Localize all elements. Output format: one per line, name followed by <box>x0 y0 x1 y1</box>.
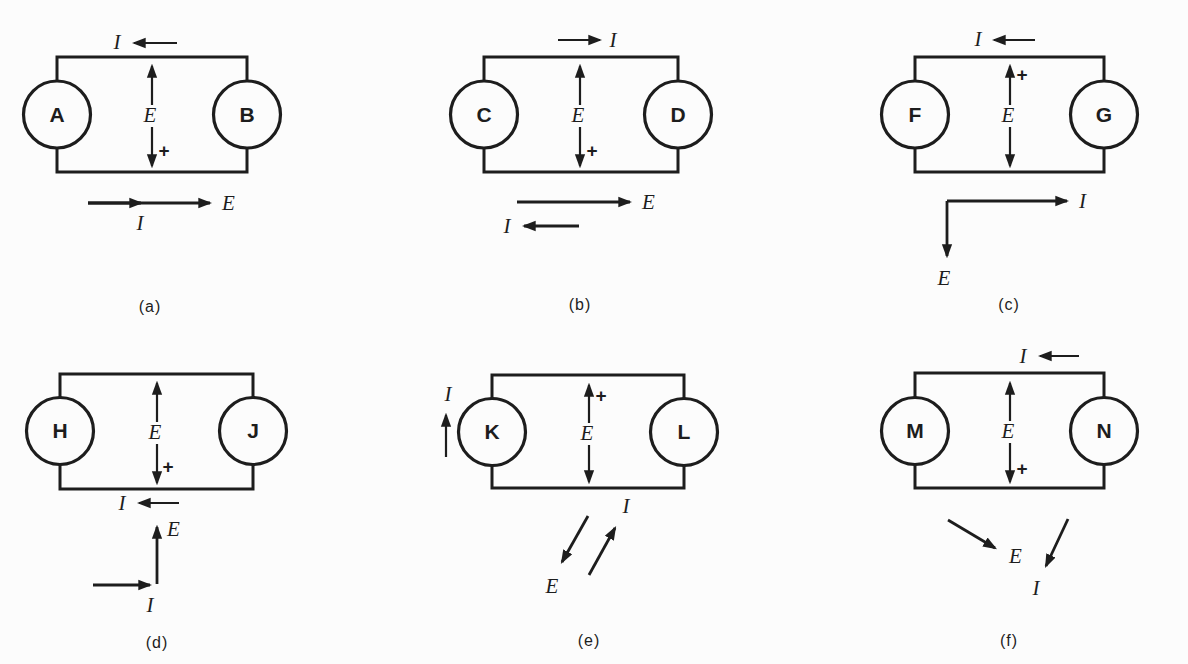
current-label: I <box>974 27 983 51</box>
phasor-i-label: I <box>136 211 145 235</box>
device-label-right: G <box>1096 103 1112 126</box>
device-label-right: L <box>678 420 691 443</box>
phasor-e-label: E <box>545 574 559 598</box>
caption: (b) <box>569 296 592 313</box>
current-label: I <box>113 30 122 54</box>
caption: (e) <box>578 632 601 649</box>
voltage-label: E <box>1001 419 1015 443</box>
current-label: I <box>609 28 618 52</box>
phasor-e-label: E <box>641 190 655 214</box>
voltage-label: E <box>148 420 162 444</box>
caption: (c) <box>998 296 1020 313</box>
phasor-i-label: I <box>622 494 631 518</box>
device-label-left: F <box>909 103 922 126</box>
plus-sign: + <box>158 140 169 161</box>
plus-sign: + <box>1016 64 1027 85</box>
device-label-right: B <box>239 103 254 126</box>
device-label-right: J <box>247 419 259 442</box>
voltage-label: E <box>1001 103 1015 127</box>
caption: (a) <box>139 298 162 315</box>
circuit-b: I E + C D E I (b) <box>451 28 712 313</box>
phasor-e-label: E <box>937 266 951 290</box>
device-label-left: H <box>52 419 67 442</box>
current-label: I <box>1019 344 1028 368</box>
plus-sign: + <box>595 385 606 406</box>
voltage-label: E <box>580 421 594 445</box>
plus-sign: + <box>1016 458 1027 479</box>
caption: (f) <box>1000 632 1018 649</box>
phasor-e-label: E <box>1008 544 1022 568</box>
plus-sign: + <box>586 140 597 161</box>
current-label: I <box>444 382 453 406</box>
phasor-i-arrow <box>589 528 615 575</box>
device-label-right: D <box>670 103 685 126</box>
circuit-a: I E + A B E I (a) <box>24 30 281 315</box>
phasor-i-label: I <box>1078 189 1087 213</box>
phasor-i-arrow <box>1046 519 1068 566</box>
circuit-e: I E + K L E I (e) <box>444 375 718 649</box>
circuit-f: I E + M N E I (f) <box>882 344 1138 649</box>
phasor-i-label: I <box>503 214 512 238</box>
device-label-left: K <box>484 420 499 443</box>
phasor-e-arrow <box>562 516 588 562</box>
phasor-i-label: I <box>146 593 155 617</box>
device-label-left: C <box>476 103 491 126</box>
circuit-d: E + H J I E I (d) <box>27 374 287 651</box>
circuit-c: I E + F G I E (c) <box>882 27 1138 313</box>
circuits-figure: I E + A B E I (a) I E + C D E I (b) <box>0 0 1188 664</box>
plus-sign: + <box>162 456 173 477</box>
phasor-e-arrow <box>948 520 995 548</box>
caption: (d) <box>146 634 169 651</box>
device-label-left: M <box>906 419 924 442</box>
current-label: I <box>118 491 127 515</box>
phasor-e-label: E <box>221 191 235 215</box>
device-label-right: N <box>1096 419 1111 442</box>
figure-page: I E + A B E I (a) I E + C D E I (b) <box>0 0 1188 664</box>
voltage-label: E <box>143 103 157 127</box>
device-label-left: A <box>49 103 64 126</box>
voltage-label: E <box>571 103 585 127</box>
phasor-e-label: E <box>166 517 180 541</box>
phasor-i-label: I <box>1032 576 1041 600</box>
